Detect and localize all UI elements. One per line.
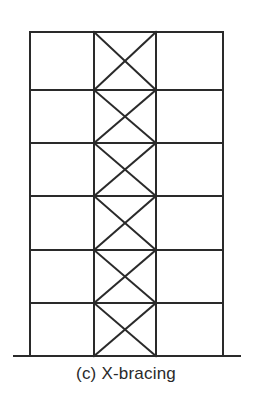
x-braces (94, 32, 156, 356)
columns (30, 32, 223, 356)
x-braced-frame-diagram (0, 0, 256, 399)
figure-caption: (c) X-bracing (0, 364, 252, 384)
